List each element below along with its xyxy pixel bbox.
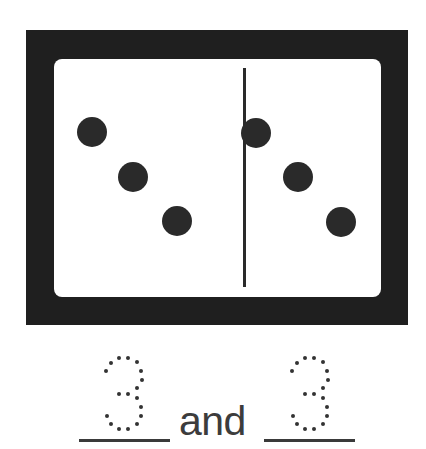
right-pip-3 [326, 207, 356, 237]
domino [26, 30, 408, 325]
answer-blank-2[interactable] [264, 439, 355, 442]
right-pip-2 [283, 162, 313, 192]
domino-face [54, 59, 381, 297]
traced-digit-1 [104, 355, 144, 433]
left-pip-1 [77, 117, 107, 147]
traced-digit-2 [290, 355, 330, 433]
domino-divider [243, 68, 246, 287]
left-pip-3 [162, 206, 192, 236]
left-pip-2 [118, 162, 148, 192]
right-pip-1 [241, 118, 271, 148]
connector-word: and [179, 399, 246, 443]
answer-blank-1[interactable] [79, 439, 170, 442]
